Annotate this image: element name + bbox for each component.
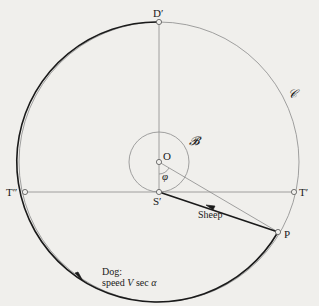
label-dog-line1: Dog: [102, 266, 156, 277]
point-t-prime [291, 189, 296, 194]
label-dog: Dog: speed V sec α [102, 266, 156, 288]
label-dog-speed-prefix: speed [102, 277, 127, 288]
label-circle-c: 𝒞 [288, 88, 297, 100]
label-dog-line2: speed V sec α [102, 277, 156, 288]
label-d-prime: D′ [153, 8, 163, 19]
point-s-prime [156, 189, 161, 194]
point-p [275, 229, 280, 234]
label-t-prime: T′ [299, 187, 308, 198]
label-dog-speed-sec: sec [133, 277, 151, 288]
label-sheep: Sheep [198, 210, 222, 220]
label-phi: φ [162, 171, 168, 182]
label-p: P [284, 229, 290, 240]
point-d-prime [156, 19, 161, 24]
radius-line-o-p [159, 162, 278, 232]
label-dog-speed-alpha: α [151, 277, 156, 288]
label-t-double-prime: T″ [6, 187, 17, 198]
point-o [156, 159, 161, 164]
label-o: O [163, 151, 171, 162]
dog-path-arc [17, 22, 278, 302]
point-t-double-prime [22, 189, 27, 194]
label-circle-b: 𝓑 [189, 135, 200, 147]
dog-sheep-pursuit-diagram [0, 0, 319, 306]
label-s-prime: S′ [153, 196, 162, 207]
